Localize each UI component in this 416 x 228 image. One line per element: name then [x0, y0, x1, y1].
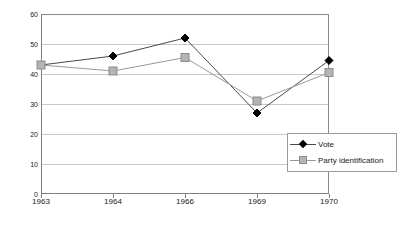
chart-legend: Vote Party identification [287, 133, 397, 172]
legend-entry-vote: Vote [288, 137, 398, 153]
series-line-vote [41, 38, 329, 113]
data-point-party-identification-1964 [109, 67, 117, 75]
legend-label-party-identification: Party identification [318, 157, 383, 165]
line-chart: 60 50 40 30 20 10 0 1963 1964 1966 1969 … [0, 0, 416, 228]
data-point-party-identification-1970 [325, 69, 333, 77]
data-point-vote-1964 [109, 52, 117, 60]
data-series-layer [0, 0, 416, 228]
data-point-party-identification-1963 [37, 61, 45, 69]
diamond-marker-icon [288, 138, 318, 152]
data-point-party-identification-1966 [181, 54, 189, 62]
data-point-vote-1970 [325, 57, 333, 65]
legend-entry-party-identification: Party identification [288, 153, 398, 169]
square-marker-icon [288, 154, 318, 168]
legend-label-vote: Vote [318, 141, 334, 149]
series-line-party-identification [41, 58, 329, 102]
data-point-party-identification-1969 [253, 97, 261, 105]
